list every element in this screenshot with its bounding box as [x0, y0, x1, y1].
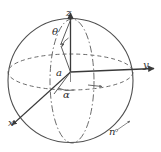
y-axis-label: y — [143, 60, 149, 70]
azimuth-angle-label: α — [63, 90, 70, 100]
spherical-coordinate-diagram: z y x θ a α n — [0, 0, 161, 152]
normal-vector-label: n — [109, 127, 115, 137]
radius-vector — [61, 46, 71, 72]
z-axis-label: z — [66, 8, 71, 18]
normal-leader-line — [117, 121, 130, 130]
y-axis — [71, 69, 155, 73]
normal-foot-point — [115, 129, 117, 131]
meridian-ellipse — [50, 19, 94, 143]
equator-direction-arrow — [88, 85, 102, 87]
x-axis-label: x — [8, 118, 14, 128]
sphere-drawing — [0, 0, 161, 152]
radius-label: a — [56, 68, 62, 78]
pole-to-radius-line — [61, 20, 71, 45]
polar-angle-label: θ — [52, 27, 58, 37]
x-axis — [12, 72, 71, 125]
